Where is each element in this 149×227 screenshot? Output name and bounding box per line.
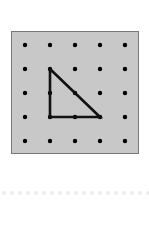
bottom-rule-dot	[18, 191, 22, 195]
bottom-rule-dot	[106, 191, 110, 195]
bottom-rule-dot	[90, 191, 94, 195]
bottom-rule-dot	[130, 191, 134, 195]
peg-dot	[23, 67, 27, 71]
bottom-rule-dot	[98, 191, 102, 195]
bottom-rule-dot	[74, 191, 78, 195]
peg-dot	[123, 139, 127, 143]
bottom-rule-dot	[58, 191, 62, 195]
bottom-dot-rule-graphic	[0, 189, 149, 197]
geoboard-panel	[11, 31, 139, 154]
bottom-rule-dot	[146, 191, 149, 195]
peg-dot	[98, 139, 102, 143]
bottom-rule-dot	[82, 191, 86, 195]
peg-dot	[98, 91, 102, 95]
peg-dot	[98, 67, 102, 71]
bottom-dot-group	[2, 191, 149, 195]
peg-dot	[123, 43, 127, 47]
geoboard-graphic	[11, 31, 139, 154]
peg-dot	[23, 91, 27, 95]
peg-dot	[98, 43, 102, 47]
bottom-rule-dot	[122, 191, 126, 195]
peg-dot	[48, 139, 52, 143]
peg-dot	[123, 67, 127, 71]
bottom-rule-dot	[138, 191, 142, 195]
figure-stage	[0, 0, 149, 227]
peg-dot	[123, 91, 127, 95]
bottom-rule-dot	[114, 191, 118, 195]
peg-dot	[23, 43, 27, 47]
bottom-rule-dot	[34, 191, 38, 195]
bottom-rule-dot	[26, 191, 30, 195]
bottom-rule-dot	[10, 191, 14, 195]
peg-dot	[73, 67, 77, 71]
bottom-dot-rule	[0, 189, 149, 197]
bottom-rule-dot	[2, 191, 6, 195]
peg-dot	[73, 139, 77, 143]
bottom-rule-dot	[50, 191, 54, 195]
peg-dot	[23, 139, 27, 143]
bottom-rule-dot	[42, 191, 46, 195]
bottom-rule-dot	[66, 191, 70, 195]
peg-dot	[48, 43, 52, 47]
peg-dot	[73, 43, 77, 47]
peg-dot	[123, 115, 127, 119]
peg-dot	[23, 115, 27, 119]
